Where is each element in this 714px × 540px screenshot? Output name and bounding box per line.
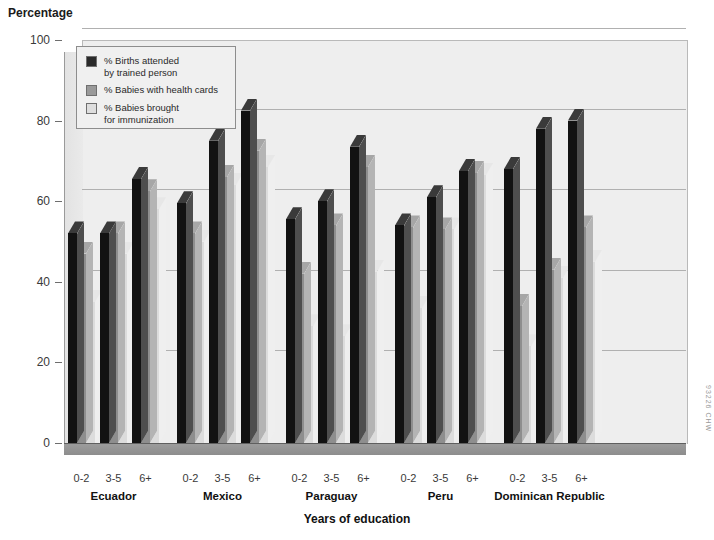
y-tick-label-0: 0 xyxy=(14,436,50,450)
bar-side-face xyxy=(359,147,366,443)
bar-side-shape xyxy=(150,179,157,443)
bar-side-face xyxy=(404,225,411,443)
bar-side-shape xyxy=(77,221,84,443)
x-category-label-8: 6+ xyxy=(342,472,386,484)
bar-side-face xyxy=(150,191,157,443)
bar-side-face xyxy=(377,272,384,443)
bar-peru-6+-series0 xyxy=(459,171,468,443)
bar-side-face xyxy=(259,151,266,443)
bar-side-face xyxy=(586,227,593,443)
x-category-label-14: 6+ xyxy=(560,472,604,484)
legend-item-births: % Births attended by trained person xyxy=(86,55,227,78)
bar-mexico-6+-series0 xyxy=(241,111,250,443)
bar-mexico-3-5-series0 xyxy=(209,141,218,443)
legend-swatch-health-cards-icon xyxy=(86,85,97,96)
bar-side-face xyxy=(513,169,520,443)
bar-ecuador-3-5-series0 xyxy=(100,233,109,443)
y-axis-title: Percentage xyxy=(8,6,73,20)
bar-side-shape xyxy=(295,207,302,443)
bar-front-face xyxy=(350,147,359,443)
bar-paraguay-3-5-series0 xyxy=(318,201,327,443)
bar-side-shape xyxy=(486,163,493,443)
bar-dominican-republic-6+-series0 xyxy=(568,121,577,443)
bar-side-shape xyxy=(359,135,366,443)
bar-side-shape xyxy=(109,221,116,443)
bar-side-face xyxy=(227,177,234,443)
y-tick-label-80: 80 xyxy=(14,114,50,128)
bar-side-shape xyxy=(522,294,529,443)
bar-side-shape xyxy=(477,161,484,443)
bar-paraguay-0-2-series0 xyxy=(286,219,295,443)
legend-label-health-cards: % Babies with health cards xyxy=(104,84,218,96)
x-category-label-5: 6+ xyxy=(233,472,277,484)
bar-side-face xyxy=(218,141,225,443)
bar-front-face xyxy=(241,111,250,443)
x-axis-line xyxy=(64,443,686,444)
bar-side-face xyxy=(86,254,93,443)
bar-front-face xyxy=(536,129,545,443)
bar-side-shape xyxy=(377,260,384,443)
bar-front-face xyxy=(459,171,468,443)
bar-side-face xyxy=(141,179,148,443)
bar-side-face xyxy=(477,173,484,443)
legend-label-immunization: % Babies brought for immunization xyxy=(104,102,179,125)
bar-side-face xyxy=(336,225,343,443)
bar-side-shape xyxy=(159,197,166,443)
bar-side-shape xyxy=(86,242,93,443)
chart-floor xyxy=(64,443,686,455)
bar-side-face xyxy=(413,227,420,443)
bar-side-shape xyxy=(445,217,452,443)
bar-side-face xyxy=(195,233,202,443)
bar-side-face xyxy=(468,171,475,443)
bar-side-face xyxy=(109,233,116,443)
bar-side-face xyxy=(522,306,529,443)
bar-mexico-0-2-series0 xyxy=(177,203,186,443)
bar-side-shape xyxy=(436,185,443,443)
bar-side-shape xyxy=(141,167,148,443)
bar-side-face xyxy=(436,197,443,443)
bar-side-face xyxy=(368,167,375,443)
bar-side-shape xyxy=(327,189,334,443)
y-tick-mark-80 xyxy=(55,121,62,122)
bar-peru-0-2-series0 xyxy=(395,225,404,443)
bar-side-face xyxy=(77,233,84,443)
bar-side-shape xyxy=(404,213,411,443)
y-tick-label-100: 100 xyxy=(14,33,50,47)
bar-side-shape xyxy=(259,139,266,443)
bar-side-face xyxy=(577,121,584,443)
bar-side-shape xyxy=(250,99,257,443)
legend-label-births: % Births attended by trained person xyxy=(104,55,179,78)
y-tick-mark-20 xyxy=(55,362,62,363)
bar-dominican-republic-3-5-series0 xyxy=(536,129,545,443)
bar-side-shape xyxy=(545,117,552,443)
bar-side-shape xyxy=(595,250,602,443)
bar-paraguay-6+-series0 xyxy=(350,147,359,443)
y-tick-label-60: 60 xyxy=(14,194,50,208)
legend-swatch-immunization-icon xyxy=(86,103,97,114)
legend-item-health-cards: % Babies with health cards xyxy=(86,84,227,96)
bar-front-face xyxy=(318,201,327,443)
legend-item-immunization: % Babies brought for immunization xyxy=(86,102,227,125)
y-tick-mark-0 xyxy=(55,443,62,444)
bar-side-shape xyxy=(268,155,275,443)
x-category-label-2: 6+ xyxy=(124,472,168,484)
bar-front-face xyxy=(286,219,295,443)
bar-side-shape xyxy=(336,213,343,443)
bar-front-face xyxy=(100,233,109,443)
x-category-label-11: 6+ xyxy=(451,472,495,484)
bar-side-face xyxy=(486,175,493,443)
bar-ecuador-6+-series0 xyxy=(132,179,141,443)
bar-dominican-republic-0-2-series0 xyxy=(504,169,513,443)
bar-ecuador-0-2-series0 xyxy=(68,233,77,443)
bar-front-face xyxy=(504,169,513,443)
bar-side-shape xyxy=(218,129,225,443)
bar-front-face xyxy=(68,233,77,443)
y-tick-label-20: 20 xyxy=(14,355,50,369)
bar-side-shape xyxy=(186,191,193,443)
x-axis-title: Years of education xyxy=(0,512,714,526)
bar-side-shape xyxy=(227,165,234,443)
y-tick-mark-60 xyxy=(55,201,62,202)
bar-side-face xyxy=(186,203,193,443)
bar-front-face xyxy=(427,197,436,443)
gridline-100 xyxy=(82,28,686,29)
